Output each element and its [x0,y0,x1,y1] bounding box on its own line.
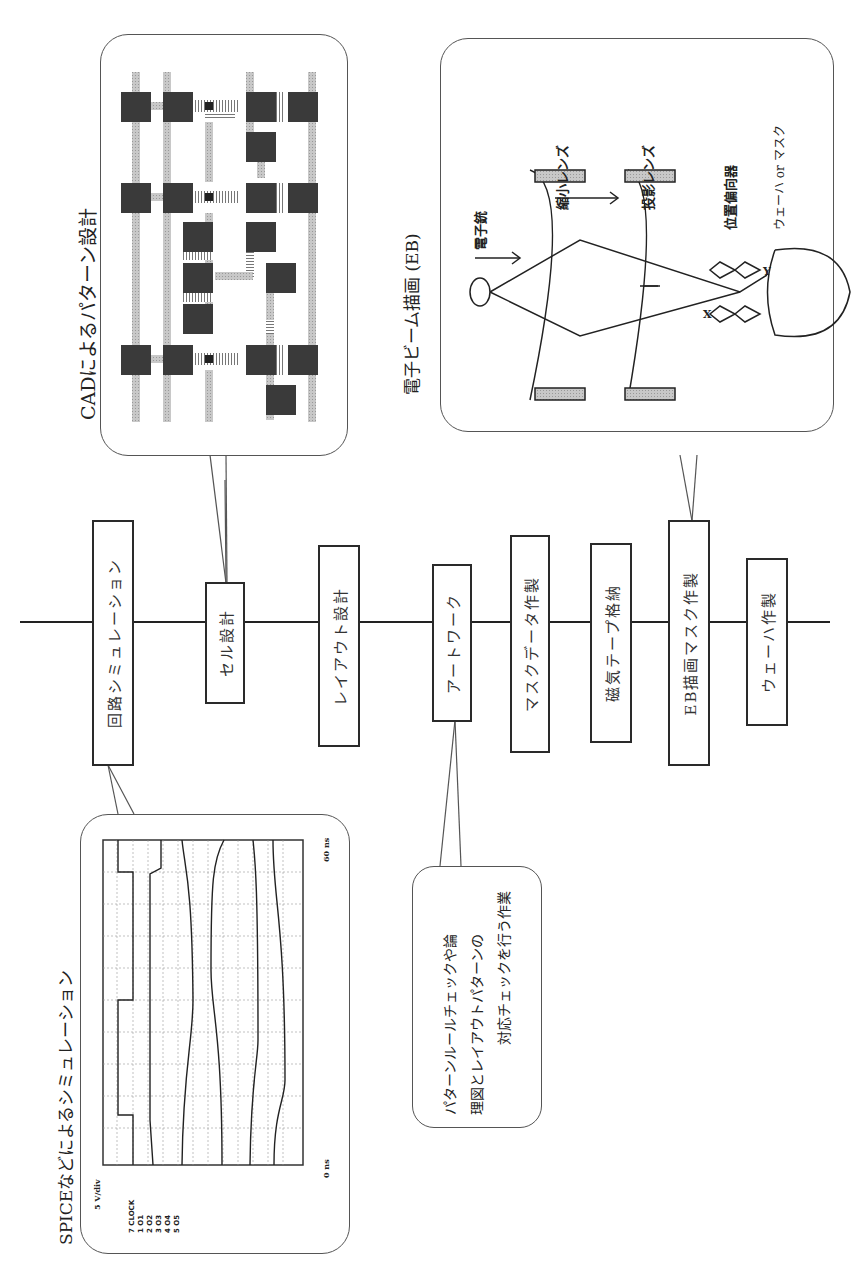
legend-clock: 7 CLOCK [128,1200,137,1233]
note-line-2: 理図とレイアウトパターンの [464,891,491,1115]
legend-o3: 3 O3 [155,1200,164,1233]
legend-o5: 5 O5 [173,1200,182,1233]
spice-legend: 7 CLOCK 1 O1 2 O2 3 O3 4 O4 5 O5 [128,1200,182,1233]
legend-o1: 1 O1 [137,1200,146,1233]
spice-time-start: 0 ns [321,1159,331,1178]
artwork-note-text: パターンルールチェックや論 理図とレイアウトパターンの 対応チェックを行う作業 [437,891,518,1115]
note-line-1: パターンルールチェックや論 [437,891,464,1115]
spice-time-end: 60 ns [321,838,331,862]
legend-o2: 2 O2 [146,1200,155,1233]
legend-o4: 4 O4 [164,1200,173,1233]
note-line-3: 対応チェックを行う作業 [491,891,518,1115]
spice-scale-label: 5 V/div [92,1179,102,1210]
